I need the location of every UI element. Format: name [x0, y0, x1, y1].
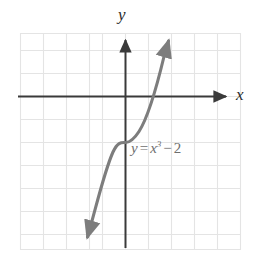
equation-equals: =	[138, 140, 150, 156]
equation-base: x	[150, 140, 157, 156]
equation-lhs: y	[131, 140, 138, 156]
y-axis-label: y	[118, 6, 126, 23]
equation-minus: −	[161, 140, 173, 156]
equation-label: y=x3−2	[131, 141, 181, 156]
coordinate-plane	[0, 0, 256, 257]
x-axis-label: x	[236, 86, 244, 103]
equation-constant: 2	[174, 140, 182, 156]
graph-figure: y x y=x3−2	[0, 0, 256, 257]
